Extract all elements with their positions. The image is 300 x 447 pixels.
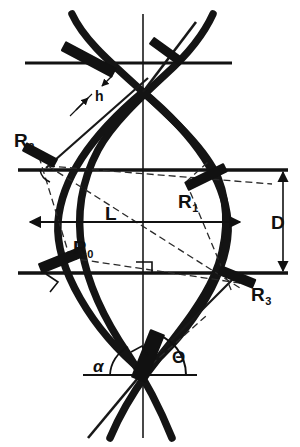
lens-arc-right (143, 92, 228, 372)
label-L: L (105, 204, 117, 223)
label-R3-subscript: 3 (265, 295, 271, 307)
label-R3: R3 (251, 285, 271, 304)
technical-diagram-figure: R2 R1 R0 R3 h L D α Θ (0, 0, 300, 447)
label-R2-base: R (14, 130, 28, 151)
label-h: h (95, 89, 104, 103)
label-R1: R1 (178, 192, 198, 211)
label-alpha: α (93, 358, 104, 375)
chord-lower-right (160, 276, 236, 352)
dashed-r0-to-r2 (40, 160, 70, 258)
label-D: D (271, 213, 285, 232)
angle-arc-r2-small (40, 170, 50, 182)
diagram-canvas (0, 0, 300, 447)
label-R2: R2 (14, 131, 34, 150)
label-R2-subscript: 2 (28, 141, 34, 153)
label-R0: R0 (73, 238, 93, 257)
label-R1-subscript: 1 (192, 202, 198, 214)
label-theta: Θ (172, 349, 185, 366)
dimension-extension-h (70, 94, 92, 116)
lens-arc-left (58, 92, 143, 372)
label-R3-base: R (251, 284, 265, 305)
label-R1-base: R (178, 191, 192, 212)
label-R0-base: R (73, 237, 87, 258)
right-angle-marker-r0 (46, 274, 58, 292)
dimension-arrow-h-upper (102, 76, 112, 86)
label-R0-subscript: 0 (87, 248, 93, 260)
